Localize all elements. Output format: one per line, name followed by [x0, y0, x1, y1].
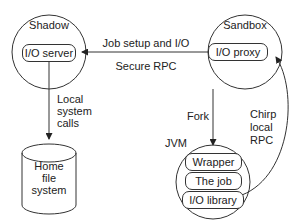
sandbox-title: Sandbox [218, 19, 272, 32]
storage-line-system: system [24, 184, 74, 197]
jvm-title: JVM [165, 137, 187, 150]
rpc-label: RPC [250, 134, 273, 147]
the-job-box: The job [185, 172, 242, 190]
local-rpc-label: local [250, 121, 273, 134]
io-library-box: I/O library [182, 191, 244, 209]
io-server-box: I/O server [22, 44, 76, 62]
shadow-title: Shadow [24, 19, 74, 32]
wrapper-box: Wrapper [185, 153, 242, 171]
chirp-label: Chirp [250, 108, 276, 121]
secure-rpc-label: Secure RPC [82, 60, 210, 73]
job-setup-label: Job setup and I/O [82, 37, 210, 50]
architecture-diagram: Shadow I/O server Sandbox I/O proxy Job … [0, 0, 296, 224]
calls-label: calls [57, 117, 79, 130]
fork-label: Fork [187, 110, 209, 123]
io-proxy-box: I/O proxy [208, 43, 268, 61]
